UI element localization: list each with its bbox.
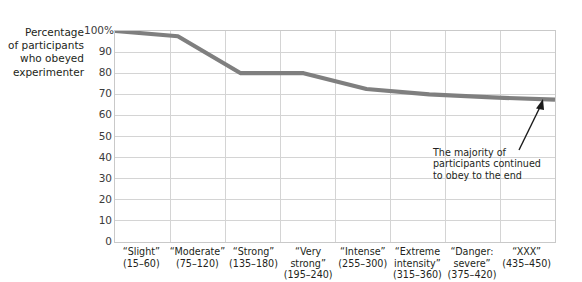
x-label-strong-line-1: “Strong” bbox=[227, 246, 280, 258]
x-label-intense: “Intense” (255–300) bbox=[335, 246, 390, 282]
y-tick-10: 10 bbox=[84, 215, 112, 226]
x-label-xxx-line-1: “XXX” bbox=[500, 246, 553, 258]
annotation-line-2: participants continued bbox=[433, 158, 577, 169]
chart-plot-svg bbox=[115, 31, 555, 242]
y-axis-title-line-3: who obeyed bbox=[2, 52, 84, 65]
annotation-line-3: to obey to the end bbox=[433, 170, 577, 181]
x-label-danger-severe-line-2: severe” bbox=[446, 258, 499, 270]
x-label-strong: “Strong” (135–180) bbox=[226, 246, 281, 282]
x-label-moderate-line-2: (75–120) bbox=[170, 258, 226, 270]
x-label-danger-severe: “Danger: severe” (375–420) bbox=[445, 246, 500, 282]
y-tick-0: 0 bbox=[84, 236, 112, 247]
y-tick-90: 90 bbox=[84, 46, 112, 57]
y-axis-title-line-4: experimenter bbox=[2, 66, 84, 79]
chart-annotation: The majority of participants continued t… bbox=[433, 147, 577, 181]
y-tick-20: 20 bbox=[84, 194, 112, 205]
x-label-very-strong-line-3: (195–240) bbox=[282, 269, 335, 281]
x-label-extreme-intensity-line-3: (315–360) bbox=[391, 269, 444, 281]
x-label-intense-line-2: (255–300) bbox=[336, 258, 389, 270]
y-tick-50: 50 bbox=[84, 130, 112, 141]
y-tick-80: 80 bbox=[84, 67, 112, 78]
plot-area bbox=[114, 30, 556, 243]
y-tick-60: 60 bbox=[84, 109, 112, 120]
x-label-moderate: “Moderate” (75–120) bbox=[169, 246, 227, 282]
x-label-very-strong-line-1: “Very bbox=[282, 246, 335, 258]
y-tick-30: 30 bbox=[84, 172, 112, 183]
x-label-slight: “Slight” (15–60) bbox=[114, 246, 169, 282]
x-label-xxx-line-2: (435–450) bbox=[500, 258, 553, 270]
x-label-strong-line-2: (135–180) bbox=[227, 258, 280, 270]
x-label-extreme-intensity-line-1: “Extreme bbox=[391, 246, 444, 258]
x-label-intense-line-1: “Intense” bbox=[336, 246, 389, 258]
y-axis-title-line-1: Percentage bbox=[2, 26, 84, 39]
x-label-slight-line-2: (15–60) bbox=[115, 258, 168, 270]
x-label-danger-severe-line-3: (375–420) bbox=[446, 269, 499, 281]
x-label-xxx: “XXX” (435–450) bbox=[499, 246, 554, 282]
obedience-line-chart: Percentage of participants who obeyed ex… bbox=[0, 0, 582, 282]
y-tick-70: 70 bbox=[84, 88, 112, 99]
x-label-danger-severe-line-1: “Danger: bbox=[446, 246, 499, 258]
x-label-slight-line-1: “Slight” bbox=[115, 246, 168, 258]
y-tick-40: 40 bbox=[84, 151, 112, 162]
x-label-very-strong-line-2: strong” bbox=[282, 258, 335, 270]
x-label-extreme-intensity-line-2: intensity” bbox=[391, 258, 444, 270]
x-label-very-strong: “Very strong” (195–240) bbox=[281, 246, 336, 282]
y-axis-title: Percentage of participants who obeyed ex… bbox=[2, 26, 84, 79]
y-axis-tick-labels: 0 10 20 30 40 50 60 70 80 90 100% bbox=[84, 0, 112, 282]
y-tick-100: 100% bbox=[84, 25, 112, 36]
annotation-line-1: The majority of bbox=[433, 147, 577, 158]
x-axis-tick-labels: “Slight” (15–60) “Moderate” (75–120) “St… bbox=[114, 246, 554, 282]
x-label-extreme-intensity: “Extreme intensity” (315–360) bbox=[390, 246, 445, 282]
y-axis-title-line-2: of participants bbox=[2, 39, 84, 52]
x-label-moderate-line-1: “Moderate” bbox=[170, 246, 226, 258]
